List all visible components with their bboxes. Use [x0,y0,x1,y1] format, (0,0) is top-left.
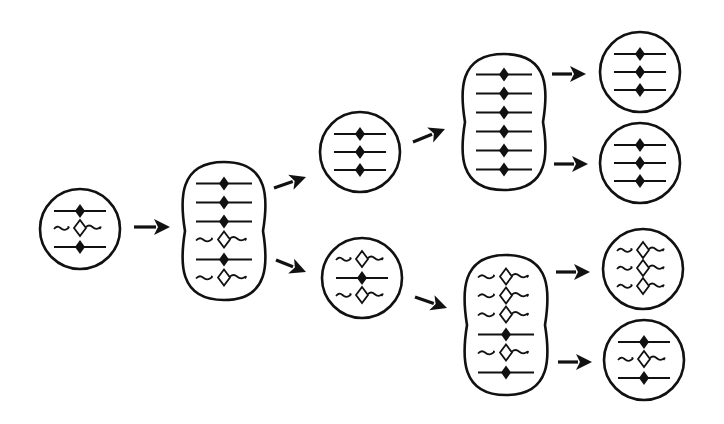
cell-2a [320,112,400,192]
cell-2b [322,238,402,318]
arrow-icon [558,354,592,370]
arrow-icon [413,128,445,143]
cell-division-diagram [0,0,724,424]
arrow-icon [554,156,588,172]
cells-layer [40,32,684,400]
cell-3b [464,255,547,395]
cell-4c [603,229,683,309]
arrow-icon [552,66,586,82]
cell-4a [600,32,680,112]
arrow-icon [134,219,170,235]
cell-1 [182,162,265,300]
arrow-icon [556,264,590,280]
cell-3a [462,54,545,190]
cell-0 [40,189,120,269]
cell-4b [600,123,680,203]
arrow-icon [415,295,447,310]
arrow-icon [276,259,306,274]
cell-4d [604,320,684,400]
arrow-icon [274,175,306,190]
